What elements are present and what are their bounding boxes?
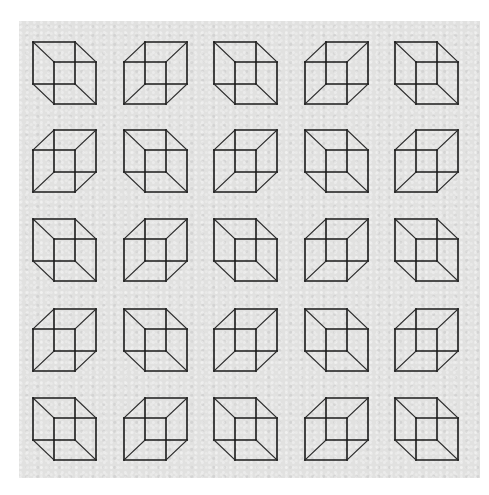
necker-cube-tl: [33, 42, 96, 104]
necker-cube-tl: [305, 130, 368, 192]
necker-cube-tl: [33, 219, 96, 281]
necker-cube-tl: [395, 219, 458, 281]
necker-cube-tr: [305, 219, 368, 281]
necker-cube-tr: [33, 130, 96, 192]
necker-cube-tr: [214, 309, 277, 371]
necker-cube-tl: [395, 42, 458, 104]
necker-cube-tr: [214, 130, 277, 192]
necker-cube-tl: [214, 219, 277, 281]
necker-cube-tr: [124, 398, 187, 460]
necker-cube-tr: [395, 130, 458, 192]
necker-cube-tr: [305, 398, 368, 460]
necker-cube-tr: [124, 219, 187, 281]
necker-cube-grid: [0, 0, 489, 495]
necker-cube-tr: [124, 42, 187, 104]
necker-cube-tr: [305, 42, 368, 104]
necker-cube-tl: [214, 42, 277, 104]
necker-cube-tr: [395, 309, 458, 371]
necker-cube-tl: [305, 309, 368, 371]
necker-cube-tl: [124, 309, 187, 371]
necker-cube-tl: [33, 398, 96, 460]
necker-cube-tl: [395, 398, 458, 460]
necker-cube-tr: [33, 309, 96, 371]
necker-cube-tl: [214, 398, 277, 460]
necker-cube-tl: [124, 130, 187, 192]
